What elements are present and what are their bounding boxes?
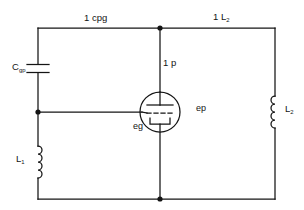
inductor-l1-coils (38, 146, 42, 178)
circuit-schematic-svg (0, 0, 304, 210)
label-left-inductor: L1 (16, 154, 25, 164)
top-center-junction-dot (157, 25, 162, 30)
inductor-l2-coils (271, 96, 275, 128)
label-top-right-branch-text: 1 L (213, 11, 226, 22)
circuit-diagram-canvas: 1 cpg 1 L2 Cgp 1 p ep eg L1 L2 (0, 0, 304, 210)
label-top-left-branch: 1 cpg (84, 13, 107, 23)
label-coupling-capacitor: Cgp (12, 62, 25, 72)
wire-grid-lead-entry (142, 112, 147, 113)
label-left-inductor-subscript: 1 (21, 159, 24, 165)
label-coupling-capacitor-subscript: gp (19, 67, 26, 73)
label-plate-branch: 1 p (163, 58, 176, 68)
label-top-right-branch: 1 L2 (213, 12, 230, 22)
label-right-inductor-subscript: 2 (290, 109, 293, 115)
left-mid-junction-dot (35, 109, 40, 114)
label-coupling-capacitor-text: C (12, 61, 19, 72)
label-right-inductor: L2 (285, 104, 294, 114)
label-grid-voltage: eg (133, 122, 143, 131)
label-top-right-branch-subscript: 2 (226, 17, 229, 23)
bottom-center-junction-dot (157, 196, 162, 201)
tube-cathode-element (150, 118, 170, 124)
label-plate-voltage: ep (196, 104, 206, 113)
